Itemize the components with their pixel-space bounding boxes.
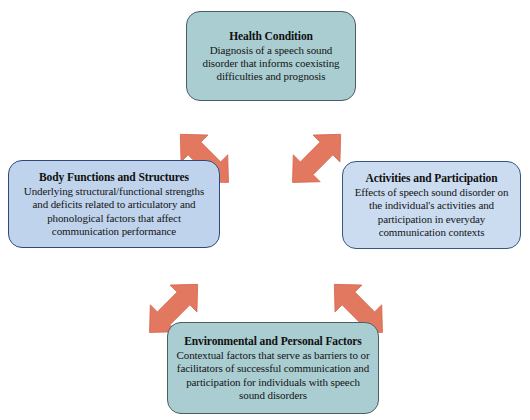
node-body-functions-and-structures: Body Functions and Structures Underlying… — [8, 160, 220, 248]
node-description: Contextual factors that serve as barrier… — [176, 349, 370, 402]
node-title: Health Condition — [229, 29, 313, 43]
node-activities-and-participation: Activities and Participation Effects of … — [342, 161, 521, 249]
node-title: Environmental and Personal Factors — [184, 334, 362, 348]
node-health-condition: Health Condition Diagnosis of a speech s… — [186, 11, 356, 101]
node-title: Body Functions and Structures — [39, 170, 189, 184]
node-description: Diagnosis of a speech sound disorder tha… — [195, 44, 347, 84]
node-title: Activities and Participation — [366, 171, 498, 185]
icf-diagram-canvas: Health Condition Diagnosis of a speech s… — [0, 0, 530, 420]
node-description: Effects of speech sound disorder on the … — [351, 186, 512, 239]
node-environmental-and-personal-factors: Environmental and Personal Factors Conte… — [167, 322, 379, 414]
node-description: Underlying structural/functional strengt… — [17, 185, 211, 238]
